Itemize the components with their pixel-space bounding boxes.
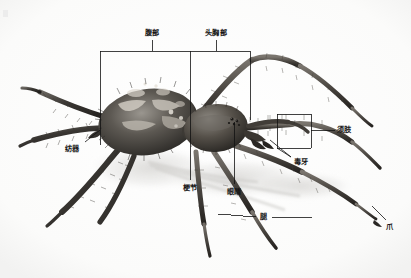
label-cephalothorax: 头胸部 (205, 29, 227, 36)
spider-anatomy-figure: 腹部 头胸部 纺器 须肢 毒牙 梗节 眼睛 腿 爪 (0, 0, 411, 278)
label-pedipalp: 须肢 (337, 126, 352, 133)
label-claw: 爪 (386, 223, 393, 230)
label-leg: 腿 (260, 213, 267, 220)
label-spinneret: 纺器 (65, 145, 80, 152)
label-pedicel: 梗节 (183, 184, 198, 191)
label-abdomen: 腹部 (145, 29, 160, 36)
spider-photograph (0, 0, 411, 278)
label-fang: 毒牙 (294, 158, 309, 165)
label-eyes: 眼睛 (227, 188, 242, 195)
